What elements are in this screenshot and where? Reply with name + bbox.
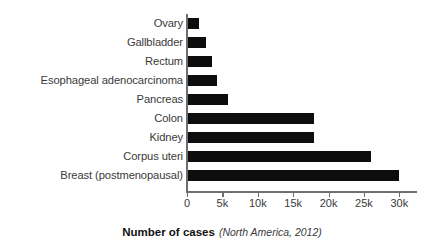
category-label-column: OvaryGallbladderRectumEsophageal adenoca… [0,14,183,192]
category-label: Pancreas [137,90,183,109]
bar-row [187,128,417,147]
bar-row [187,14,417,33]
bar-chart: OvaryGallbladderRectumEsophageal adenoca… [0,0,444,249]
bar-row [187,166,417,185]
x-axis-tick-label: 10k [249,197,267,209]
bar-row [187,147,417,166]
bar-row [187,52,417,71]
x-axis-tick-label: 25k [355,197,373,209]
bar [187,18,199,29]
category-label: Rectum [145,52,183,71]
bar [187,75,217,86]
x-axis-tick-label: 5k [217,197,229,209]
x-axis-tick-label: 0 [184,197,190,209]
bar-row [187,71,417,90]
bar [187,132,314,143]
y-axis-line [186,14,188,192]
x-axis-title: Number of cases(North America, 2012) [0,222,444,240]
bar [187,113,314,124]
category-label: Ovary [154,14,183,33]
plot-area [187,14,417,192]
bar [187,56,212,67]
category-label: Kidney [149,128,183,147]
category-label: Gallbladder [127,33,183,52]
x-axis-tick-label: 15k [284,197,302,209]
bar-row [187,109,417,128]
bar [187,37,206,48]
bar [187,170,399,181]
category-label: Corpus uteri [123,147,183,166]
x-axis-tick-label: 30k [390,197,408,209]
bar [187,151,371,162]
bar [187,94,228,105]
category-label: Esophageal adenocarcinoma [41,71,183,90]
x-axis-tick-label: 20k [320,197,338,209]
bar-row [187,33,417,52]
category-label: Colon [154,109,183,128]
x-axis-line [186,191,417,193]
x-axis-title-note: (North America, 2012) [219,226,322,238]
x-axis-title-main: Number of cases [122,226,215,238]
bar-row [187,90,417,109]
category-label: Breast (postmenopausal) [60,166,183,185]
